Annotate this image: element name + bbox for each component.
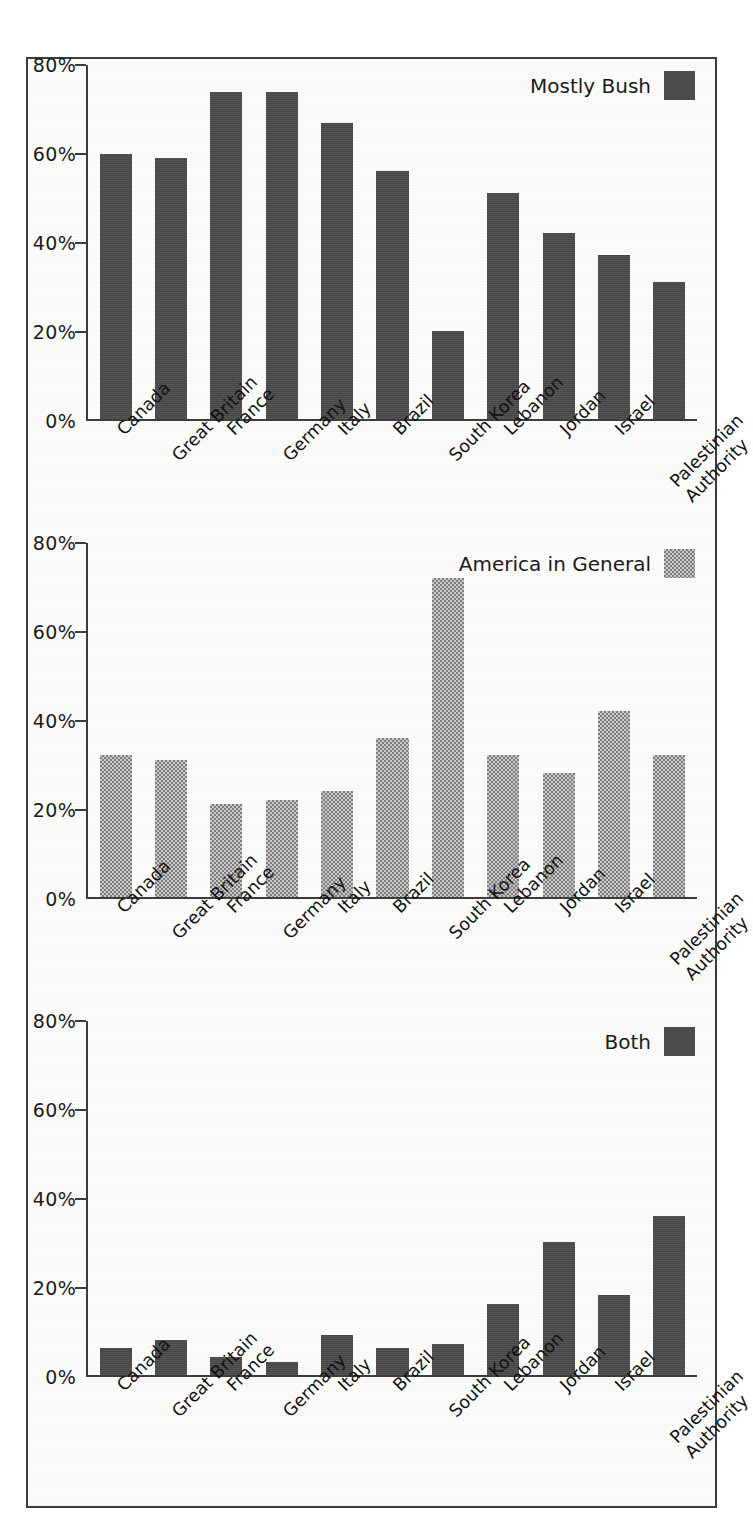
plot-area (86, 1021, 697, 1377)
bar-slot (365, 543, 420, 897)
x-label-slot: Israel (586, 899, 641, 1019)
x-label-slot: Canada (88, 1377, 143, 1497)
x-axis-label: PalestinianAuthority (666, 1366, 753, 1462)
bar-slot (199, 1021, 254, 1375)
x-label-slot: Jordan (531, 1377, 586, 1497)
x-label-slot: Jordan (531, 899, 586, 1019)
x-axis-label: PalestinianAuthority (666, 410, 753, 506)
x-label-slot: Lebanon (476, 421, 531, 541)
x-label-slot: PalestinianAuthority (642, 421, 697, 541)
bar-slot (309, 543, 364, 897)
chart-panel-mostly-bush: 80%60%40%20%0%Mostly BushCanadaGreat Bri… (28, 65, 715, 543)
bar (653, 755, 685, 897)
y-tick-label: 0% (45, 410, 76, 432)
bar-slot (420, 543, 475, 897)
y-axis-tick-labels: 80%60%40%20%0% (28, 543, 84, 899)
legend-color-swatch (664, 71, 695, 100)
bar (598, 711, 630, 897)
legend-label: Mostly Bush (530, 74, 651, 98)
x-label-slot: Brazil (365, 899, 420, 1019)
plot-area (86, 543, 697, 899)
bar-slot (476, 543, 531, 897)
bar (653, 1216, 685, 1375)
plot-area (86, 65, 697, 421)
x-label-slot: Italy (309, 899, 364, 1019)
x-axis-category-labels: CanadaGreat BritainFranceGermanyItalyBra… (88, 421, 697, 541)
x-label-slot: France (199, 1377, 254, 1497)
bar (376, 738, 408, 897)
bar-slot (88, 543, 143, 897)
bar-slot (420, 65, 475, 419)
bar-slot (143, 543, 198, 897)
chart-panel-america-in-general: 80%60%40%20%0%America in GeneralCanadaGr… (28, 543, 715, 1021)
bar (432, 578, 464, 897)
bar-slot (586, 65, 641, 419)
bar-slot (365, 1021, 420, 1375)
x-label-slot: Germany (254, 899, 309, 1019)
chart-legend: Mostly Bush (530, 71, 695, 100)
y-tick-label: 0% (45, 1366, 76, 1388)
bar (598, 1295, 630, 1375)
legend-label: Both (605, 1030, 651, 1054)
y-tick-label: 20% (33, 799, 76, 821)
bar-slot (365, 65, 420, 419)
bars-container (88, 543, 697, 897)
bar-slot (476, 65, 531, 419)
bar-slot (199, 543, 254, 897)
y-tick-label: 80% (33, 532, 76, 554)
bar (432, 331, 464, 420)
x-label-slot: Lebanon (476, 1377, 531, 1497)
y-tick-label: 60% (33, 143, 76, 165)
bar-slot (642, 65, 697, 419)
y-tick-label: 20% (33, 1277, 76, 1299)
y-tick-label: 80% (33, 1010, 76, 1032)
figure-frame: 80%60%40%20%0%Mostly BushCanadaGreat Bri… (26, 57, 717, 1508)
y-tick-label: 60% (33, 1099, 76, 1121)
bar-slot (531, 543, 586, 897)
x-label-slot: Great Britain (143, 1377, 198, 1497)
bar (100, 755, 132, 897)
bar-slot (531, 65, 586, 419)
x-label-slot: South Korea (420, 421, 475, 541)
bars-container (88, 65, 697, 419)
bar (321, 123, 353, 419)
bar (266, 92, 298, 419)
bar (653, 282, 685, 419)
bar-slot (254, 1021, 309, 1375)
y-tick-label: 20% (33, 321, 76, 343)
bar-slot (254, 543, 309, 897)
x-label-slot: Great Britain (143, 899, 198, 1019)
x-axis-category-labels: CanadaGreat BritainFranceGermanyItalyBra… (88, 1377, 697, 1497)
x-label-slot: Israel (586, 421, 641, 541)
y-tick-label: 40% (33, 710, 76, 732)
x-label-slot: Canada (88, 421, 143, 541)
bar (266, 1362, 298, 1375)
legend-label: America in General (459, 552, 651, 576)
x-label-slot: Jordan (531, 421, 586, 541)
bar-slot (531, 1021, 586, 1375)
bar (210, 92, 242, 419)
bars-container (88, 1021, 697, 1375)
bar-slot (88, 1021, 143, 1375)
chart-legend: America in General (459, 549, 695, 578)
x-label-slot: France (199, 421, 254, 541)
bar-slot (143, 65, 198, 419)
y-tick-label: 60% (33, 621, 76, 643)
bar-slot (88, 65, 143, 419)
x-label-slot: South Korea (420, 1377, 475, 1497)
y-tick-label: 0% (45, 888, 76, 910)
x-label-slot: Italy (309, 421, 364, 541)
chart-legend: Both (605, 1027, 695, 1056)
x-label-slot: Canada (88, 899, 143, 1019)
bar-slot (420, 1021, 475, 1375)
x-label-slot: Lebanon (476, 899, 531, 1019)
x-label-slot: PalestinianAuthority (642, 899, 697, 1019)
bar-slot (309, 1021, 364, 1375)
x-label-slot: Germany (254, 1377, 309, 1497)
x-label-slot: Italy (309, 1377, 364, 1497)
legend-color-swatch (664, 549, 695, 578)
bar-slot (586, 1021, 641, 1375)
bar-slot (254, 65, 309, 419)
bar (376, 171, 408, 419)
y-axis-tick-labels: 80%60%40%20%0% (28, 65, 84, 421)
